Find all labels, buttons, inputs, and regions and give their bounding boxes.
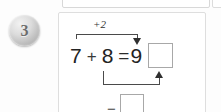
exercise-number-label: 3 xyxy=(21,23,29,39)
exercise-card: +2 7 + 8 = 9 + xyxy=(58,12,206,112)
worksheet-page: 3 +2 7 + 8 = 9 + xyxy=(0,0,221,112)
equals-operator: = xyxy=(118,45,129,67)
exercise-number-badge: 3 xyxy=(9,15,40,46)
right-addend: 8 xyxy=(102,44,114,68)
left-addend: 7 xyxy=(70,44,82,68)
top-annotation-label: +2 xyxy=(93,18,106,30)
bottom-annotation-arrow-stem xyxy=(159,78,160,85)
minus-operator: − xyxy=(107,101,116,112)
equation-area: +2 7 + 8 = 9 + xyxy=(59,13,207,112)
top-annotation-left-tick xyxy=(76,34,77,39)
answer-box-bottom[interactable] xyxy=(120,94,144,112)
result-first-term: 9 xyxy=(130,44,142,68)
bottom-annotation-bracket xyxy=(103,71,165,95)
bottom-annotation-left-tick xyxy=(103,71,104,84)
up-arrow-icon xyxy=(155,71,163,78)
panel-above-previous-exercise xyxy=(62,0,210,8)
plus-operator-first: + xyxy=(87,47,97,67)
answer-box-top[interactable] xyxy=(148,43,173,68)
top-annotation-horizontal-rule xyxy=(76,34,138,35)
bottom-annotation-horizontal-rule xyxy=(103,84,160,85)
panel-above-right-fragment xyxy=(212,0,221,8)
top-annotation-bracket: +2 xyxy=(75,19,141,45)
